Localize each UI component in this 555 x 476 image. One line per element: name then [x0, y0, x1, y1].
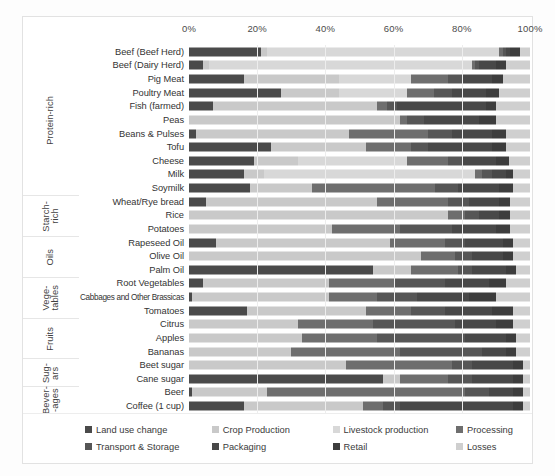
row-label-soymilk: Soymilk — [79, 183, 189, 193]
bar-segment-crop-production — [244, 170, 264, 179]
row-label-tomatoes: Tomatoes — [79, 306, 189, 316]
legend-label: Retail — [344, 442, 368, 452]
bar-segment-losses — [516, 333, 530, 342]
legend-item-processing[interactable]: Processing — [456, 425, 532, 435]
gridline-80 — [462, 45, 463, 413]
stacked-bar[interactable] — [189, 197, 530, 206]
bar-segment-losses — [496, 102, 530, 111]
bar-segment-processing — [377, 197, 449, 206]
stacked-bar[interactable] — [189, 88, 530, 97]
bar-track — [189, 318, 530, 332]
stacked-bar[interactable] — [189, 47, 530, 56]
bar-segment-processing — [390, 238, 445, 247]
bar-segment-crop-production — [189, 333, 302, 342]
bar-segment-losses — [510, 211, 530, 220]
legend-item-retail[interactable]: Retail — [333, 442, 456, 452]
bar-segment-crop-production — [192, 388, 267, 397]
bar-segment-transport-storage — [482, 170, 492, 179]
group-label: Sug- ars — [42, 363, 61, 383]
stacked-bar[interactable] — [189, 361, 530, 370]
bar-segment-processing — [475, 170, 482, 179]
bar-segment-crop-production — [192, 293, 328, 302]
legend-item-livestock-production[interactable]: Livestock production — [333, 425, 456, 435]
stacked-bar[interactable] — [189, 347, 530, 356]
stacked-bar[interactable] — [189, 388, 530, 397]
group-label: Oils — [46, 249, 55, 265]
bar-segment-retail — [499, 197, 509, 206]
stacked-bar[interactable] — [189, 75, 530, 84]
legend-row-1: Land use changeCrop ProductionLivestock … — [85, 421, 532, 438]
bar-segment-packaging — [452, 88, 486, 97]
group-label: Starch- rich — [42, 201, 61, 232]
stacked-bar[interactable] — [189, 306, 530, 315]
stacked-bar[interactable] — [189, 156, 530, 165]
group-label: Bever- -ages — [42, 386, 61, 414]
stacked-bar[interactable] — [189, 224, 530, 233]
bar-segment-transport-storage — [448, 156, 462, 165]
bar-segment-retail — [506, 170, 513, 179]
legend-item-packaging[interactable]: Packaging — [212, 442, 333, 452]
row-label-beef-dairy-herd: Beef (Dairy Herd) — [79, 60, 189, 70]
row-label-rice: Rice — [79, 210, 189, 220]
bar-segment-losses — [513, 306, 530, 315]
bar-track — [189, 236, 530, 250]
stacked-bar[interactable] — [189, 184, 530, 193]
bar-segment-land-use-change — [189, 102, 213, 111]
stacked-bar[interactable] — [189, 374, 530, 383]
stacked-bar[interactable] — [189, 102, 530, 111]
stacked-bar[interactable] — [189, 143, 530, 152]
stacked-bar[interactable] — [189, 265, 530, 274]
bar-track — [189, 345, 530, 359]
legend-item-transport-storage[interactable]: Transport & Storage — [85, 442, 212, 452]
legend-item-land-use-change[interactable]: Land use change — [85, 425, 212, 435]
stacked-bar[interactable] — [189, 115, 530, 124]
bar-segment-land-use-change — [189, 129, 196, 138]
bar-segment-processing — [366, 306, 410, 315]
stacked-bar[interactable] — [189, 61, 530, 70]
legend-item-losses[interactable]: Losses — [456, 442, 532, 452]
stacked-bar[interactable] — [189, 170, 530, 179]
bar-segment-land-use-change — [189, 402, 244, 411]
stacked-bar[interactable] — [189, 333, 530, 342]
bar-segment-crop-production — [281, 88, 339, 97]
bar-segment-transport-storage — [377, 333, 466, 342]
bar-segment-packaging — [400, 402, 513, 411]
row-label-beer: Beer — [79, 387, 189, 397]
legend-item-crop-production[interactable]: Crop Production — [212, 425, 333, 435]
bar-segment-livestock-production — [298, 156, 407, 165]
stacked-bar[interactable] — [189, 402, 530, 411]
chart-legend: Land use changeCrop ProductionLivestock … — [23, 413, 532, 463]
bar-segment-crop-production — [206, 197, 377, 206]
group-fruits: Fruits — [23, 318, 79, 359]
bar-segment-crop-production — [261, 47, 268, 56]
row-label-cane-sugar: Cane sugar — [79, 374, 189, 384]
bar-segment-processing — [302, 333, 377, 342]
bar-segment-packaging — [479, 211, 499, 220]
stacked-bar[interactable] — [189, 211, 530, 220]
stacked-bar[interactable] — [189, 320, 530, 329]
group-starch-rich: Starch- rich — [23, 195, 79, 236]
bar-track — [189, 358, 530, 372]
stacked-bar[interactable] — [189, 252, 530, 261]
bar-segment-transport-storage — [434, 88, 451, 97]
legend-swatch-icon — [85, 426, 92, 433]
bar-track — [189, 386, 530, 400]
bar-segment-processing — [332, 224, 400, 233]
row-label-tofu: Tofu — [79, 142, 189, 152]
bar-track — [189, 113, 530, 127]
bar-segment-losses — [506, 143, 530, 152]
bar-segment-retail — [506, 347, 516, 356]
bar-segment-crop-production — [189, 347, 291, 356]
bar-segment-crop-production — [271, 143, 366, 152]
bar-segment-transport-storage — [400, 347, 482, 356]
bar-segment-land-use-change — [189, 265, 373, 274]
bar-track — [189, 127, 530, 141]
bar-segment-retail — [503, 252, 513, 261]
stacked-bar[interactable] — [189, 279, 530, 288]
bar-segment-transport-storage — [448, 374, 472, 383]
bar-segment-retail — [479, 115, 496, 124]
stacked-bar[interactable] — [189, 238, 530, 247]
stacked-bar[interactable] — [189, 293, 530, 302]
bar-track — [189, 277, 530, 291]
stacked-bar[interactable] — [189, 129, 530, 138]
